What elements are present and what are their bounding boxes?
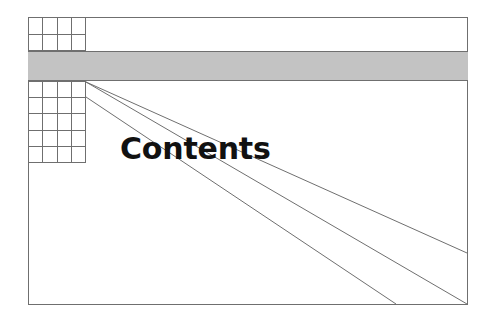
grid-line-vertical [28, 17, 29, 51]
grid-line-vertical [42, 81, 43, 163]
grid-line-vertical [85, 81, 86, 163]
grid-line-vertical [57, 17, 58, 51]
top-left-grid [28, 17, 86, 51]
horizontal-gray-band [28, 51, 468, 81]
grid-line-vertical [57, 81, 58, 163]
lower-left-grid [28, 81, 86, 163]
grid-line-vertical [85, 17, 86, 51]
grid-line-vertical [42, 17, 43, 51]
grid-line-vertical [28, 81, 29, 163]
grid-line-vertical [71, 17, 72, 51]
contents-title: Contents [120, 131, 271, 167]
grid-line-vertical [71, 81, 72, 163]
figure-canvas: Contents [0, 0, 491, 323]
